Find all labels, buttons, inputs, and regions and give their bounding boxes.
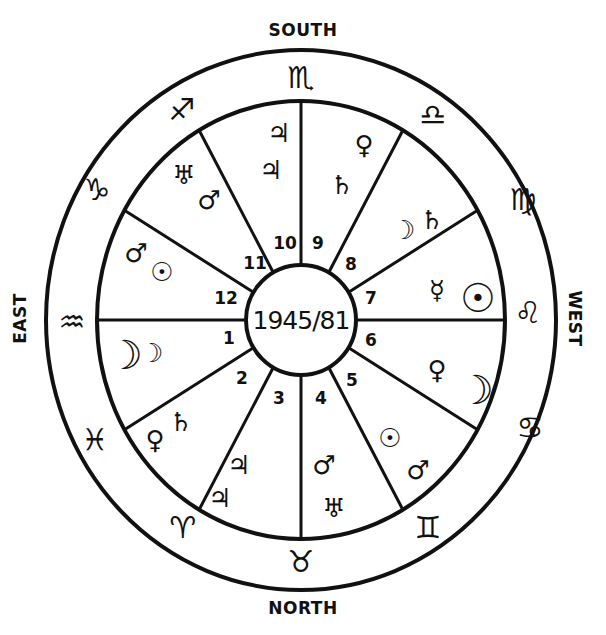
venus-icon: ♀: [354, 132, 373, 158]
sun-icon: ☉: [150, 259, 173, 285]
mars-icon: ♂: [197, 187, 220, 213]
house-number-7: 7: [365, 290, 377, 307]
jupiter-icon: ♃: [208, 485, 231, 511]
leo-icon: ♌: [515, 298, 542, 328]
moon-icon: ☽: [392, 217, 415, 243]
house-number-11: 11: [243, 255, 267, 272]
house-number-9: 9: [312, 235, 324, 252]
house-number-3: 3: [273, 390, 285, 407]
venus-icon: ♀: [145, 427, 164, 453]
sun-icon: ☉: [378, 425, 401, 451]
mercury-icon: ☿: [429, 277, 445, 303]
jupiter-icon: ♃: [259, 157, 282, 183]
house-number-2: 2: [236, 370, 248, 387]
house-number-10: 10: [273, 235, 297, 252]
jupiter-icon: ♃: [267, 120, 290, 146]
house-number-5: 5: [346, 372, 358, 389]
moon-icon: ☽: [458, 370, 494, 410]
moon-icon: ☽: [140, 340, 163, 366]
house-number-6: 6: [365, 332, 377, 349]
mars-icon: ♂: [124, 240, 147, 266]
house-number-12: 12: [214, 290, 238, 307]
saturn-icon: ♄: [169, 409, 192, 435]
sagittarius-icon: ♐: [169, 95, 196, 125]
libra-icon: ♎: [420, 100, 447, 130]
house-number-8: 8: [345, 256, 357, 273]
saturn-icon: ♄: [330, 172, 353, 198]
capricorn-icon: ♑: [84, 175, 111, 205]
taurus-icon: ♉: [288, 547, 315, 577]
cancer-icon: ♋: [517, 413, 544, 443]
mars-icon: ♂: [406, 457, 429, 483]
uranus-icon: ♅: [322, 495, 345, 521]
direction-north: NORTH: [0, 600, 606, 617]
venus-icon: ♀: [427, 357, 446, 383]
house-number-4: 4: [315, 390, 327, 407]
scorpio-icon: ♏: [288, 63, 315, 93]
saturn-icon: ♄: [420, 207, 443, 233]
direction-south: SOUTH: [0, 22, 606, 39]
aquarius-icon: ♒: [59, 307, 86, 337]
direction-east: EAST: [12, 289, 29, 349]
pisces-icon: ♓: [82, 425, 109, 455]
sun-icon: ☉: [460, 278, 496, 318]
virgo-icon: ♍: [510, 185, 537, 215]
jupiter-icon: ♃: [227, 452, 250, 478]
mars-icon: ♂: [312, 452, 335, 478]
house-number-1: 1: [223, 330, 235, 347]
year-label: 1945/81: [246, 265, 356, 375]
aries-icon: ♈: [170, 513, 197, 543]
moon-icon: ☽: [107, 335, 143, 375]
uranus-icon: ♅: [172, 162, 195, 188]
gemini-icon: ♊: [415, 513, 442, 543]
direction-west: WEST: [566, 289, 583, 349]
